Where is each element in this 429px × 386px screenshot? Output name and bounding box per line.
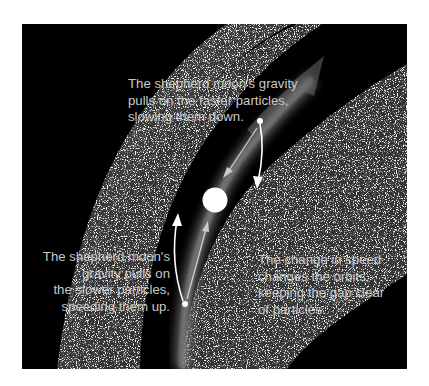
- label-left-line-3: the slower particles,: [22, 282, 170, 299]
- label-top-line-3: slowing them down.: [128, 109, 298, 126]
- label-right-line-4: of particles.: [258, 302, 384, 319]
- label-faster-particles: The shepherd moon's gravity pulls on the…: [128, 76, 298, 126]
- label-top-line-1: The shepherd moon's gravity: [128, 76, 298, 93]
- label-right-line-1: The change in speed: [258, 252, 384, 269]
- label-right-line-3: keeping the gap clear: [258, 285, 384, 302]
- label-top-line-2: pulls on the faster particles,: [128, 93, 298, 110]
- shepherd-moon: [203, 188, 228, 213]
- label-left-line-4: speeding them up.: [22, 299, 170, 316]
- label-left-line-1: The shepherd moon's: [22, 249, 170, 266]
- label-left-line-2: gravity pulls on: [22, 266, 170, 283]
- label-slower-particles: The shepherd moon's gravity pulls on the…: [22, 249, 170, 315]
- label-gap-clear: The change in speed changes the orbits, …: [258, 252, 384, 318]
- label-right-line-2: changes the orbits,: [258, 269, 384, 286]
- diagram-panel: The shepherd moon's gravity pulls on the…: [22, 24, 407, 369]
- slow-particle: [182, 301, 188, 307]
